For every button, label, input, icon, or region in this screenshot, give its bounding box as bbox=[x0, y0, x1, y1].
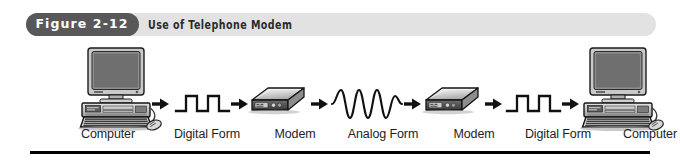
modem-flow-diagram bbox=[0, 44, 680, 136]
label-digital-form-left: Digital Form bbox=[152, 126, 262, 142]
arrow-right-icon-2 bbox=[231, 98, 248, 109]
arrow-right-icon-4 bbox=[404, 98, 421, 109]
arrow-right-icon-6 bbox=[562, 98, 579, 109]
diagram-label-row: Computer Digital Form Modem Analog Form … bbox=[0, 126, 680, 144]
figure-header-band: Figure 2-12 Use of Telephone Modem bbox=[26, 13, 656, 36]
figure-number-label: Figure 2-12 bbox=[35, 18, 129, 31]
desktop-computer-icon-left bbox=[78, 48, 163, 132]
arrow-right-icon-5 bbox=[485, 98, 502, 109]
modem-icon-right bbox=[422, 88, 478, 114]
square-wave-icon-right bbox=[507, 96, 560, 111]
figure-number-badge: Figure 2-12 bbox=[26, 13, 139, 36]
desktop-computer-icon-right bbox=[580, 48, 665, 132]
label-digital-form-right: Digital Form bbox=[503, 126, 613, 142]
arrow-right-icon-1 bbox=[152, 98, 169, 109]
label-analog-form: Analog Form bbox=[327, 126, 439, 142]
sine-wave-icon bbox=[332, 90, 402, 118]
figure-bottom-rule bbox=[30, 151, 650, 154]
label-computer-right: Computer bbox=[600, 126, 680, 142]
label-computer-left: Computer bbox=[58, 126, 158, 142]
square-wave-icon-left bbox=[176, 96, 229, 111]
label-modem-left: Modem bbox=[253, 126, 337, 142]
arrow-right-icon-3 bbox=[311, 98, 328, 109]
figure-caption: Use of Telephone Modem bbox=[148, 13, 292, 36]
modem-icon-left bbox=[248, 88, 304, 114]
